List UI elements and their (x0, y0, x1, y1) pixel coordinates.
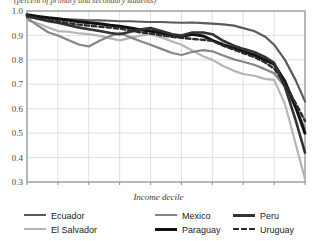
x-axis-title: Income decile (0, 192, 317, 202)
plot-area: 0.30.40.50.60.70.80.91.012345678910 (0, 6, 317, 188)
x-tick-label: 2 (56, 187, 61, 188)
figure-container: (percent of primary and secondary studen… (0, 0, 317, 241)
y-tick-label: 1.0 (12, 6, 24, 16)
legend-label: Peru (260, 211, 279, 222)
x-tick-label: 8 (241, 187, 246, 188)
x-tick-label: 4 (117, 187, 122, 188)
line-chart: 0.30.40.50.60.70.80.91.012345678910 (0, 6, 317, 188)
legend-item-uruguay[interactable]: Uruguay (233, 223, 294, 237)
y-tick-label: 0.3 (12, 177, 24, 187)
legend-label: Mexico (182, 211, 211, 222)
x-tick-label: 3 (87, 187, 92, 188)
legend-item-mexico[interactable]: Mexico (155, 209, 221, 223)
y-tick-label: 0.9 (12, 31, 24, 41)
legend-column: PeruUruguay (233, 209, 294, 241)
y-tick-label: 0.6 (12, 104, 24, 114)
legend-item-ecuador[interactable]: Ecuador (24, 209, 97, 223)
x-tick-label: 6 (179, 187, 184, 188)
y-tick-label: 0.4 (12, 153, 24, 163)
legend-column: EcuadorEl Salvador (24, 209, 97, 241)
x-tick-label: 10 (301, 187, 311, 188)
legend-item-paraguay[interactable]: Paraguay (155, 223, 221, 237)
x-tick-label: 1 (25, 187, 30, 188)
y-tick-label: 0.8 (12, 55, 24, 65)
x-tick-label: 5 (148, 187, 153, 188)
x-tick-label: 7 (210, 187, 215, 188)
chart-legend: EcuadorEl SalvadorMexicoParaguayPeruUrug… (0, 209, 317, 241)
legend-column: MexicoParaguay (155, 209, 221, 241)
legend-label: El Salvador (51, 225, 97, 236)
legend-item-el-salvador[interactable]: El Salvador (24, 223, 97, 237)
legend-label: Ecuador (51, 211, 85, 222)
legend-item-peru[interactable]: Peru (233, 209, 294, 223)
legend-label: Paraguay (182, 225, 221, 236)
y-tick-label: 0.5 (12, 128, 24, 138)
x-tick-label: 9 (272, 187, 277, 188)
legend-label: Uruguay (260, 225, 294, 236)
y-tick-label: 0.7 (12, 79, 24, 89)
